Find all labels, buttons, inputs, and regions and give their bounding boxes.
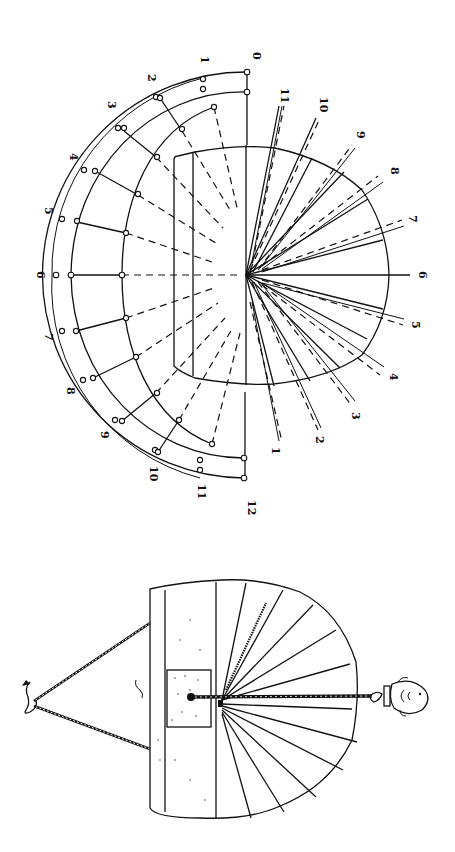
arc-label-5: 5 (42, 207, 55, 215)
arc-label-3: 3 (105, 101, 118, 109)
ray-label-3: 3 (349, 412, 362, 420)
hanging-cord (34, 623, 150, 749)
hook-icon (25, 682, 36, 713)
arc-label-8: 8 (64, 387, 77, 395)
ray-label-1: 1 (269, 447, 282, 455)
ray-hour-labels: 11 10 9 8 7 6 5 4 3 2 1 (269, 88, 429, 455)
ray-label-9: 9 (354, 131, 367, 139)
dial-hour-lines (222, 583, 357, 818)
arc-label-7: 7 (42, 333, 55, 341)
hanging-sundial-illustration (22, 580, 428, 819)
arc-label-6: 6 (34, 271, 47, 279)
arc-label-1: 1 (198, 56, 211, 64)
ray-label-6: 6 (416, 271, 429, 279)
fish-ornament-icon (370, 678, 428, 717)
arc-label-2: 2 (145, 74, 158, 82)
ray-label-8: 8 (388, 167, 401, 175)
hour-rays (246, 106, 410, 442)
arc-label-10: 10 (147, 466, 160, 482)
ray-label-10: 10 (317, 97, 330, 113)
arc-label-11: 11 (195, 484, 208, 499)
arc-label-12: 12 (245, 500, 258, 515)
ray-label-7: 7 (406, 215, 419, 223)
ray-label-2: 2 (313, 436, 326, 444)
ray-label-5: 5 (409, 321, 422, 329)
ray-label-11: 11 (278, 88, 291, 103)
arc-label-0: 0 (250, 52, 263, 60)
ray-label-4: 4 (387, 373, 400, 381)
sundial-figure: 0 1 2 3 4 5 6 7 8 9 10 11 12 11 10 9 8 7… (0, 0, 455, 852)
hour-line-construction-diagram: 0 1 2 3 4 5 6 7 8 9 10 11 12 11 10 9 8 7… (34, 52, 429, 515)
arc-label-4: 4 (67, 153, 80, 161)
arc-label-9: 9 (98, 431, 111, 439)
